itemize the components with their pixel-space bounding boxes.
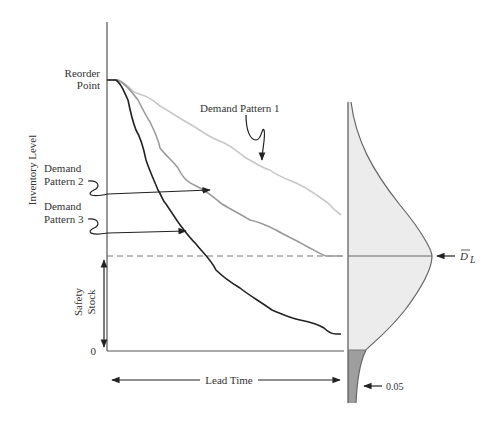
y-axis-label: Inventory Level bbox=[26, 135, 38, 206]
mean-demand-label: D bbox=[459, 250, 468, 262]
safety-stock-diagram: Reorder Point Inventory Level Demand Pat… bbox=[0, 0, 496, 424]
reorder-point-label-2: Point bbox=[77, 79, 100, 91]
demand-pattern-3-pointer bbox=[88, 219, 186, 234]
lead-time-label: Lead Time bbox=[205, 374, 252, 386]
reorder-point-label-1: Reorder bbox=[65, 67, 101, 79]
zero-label: 0 bbox=[91, 345, 97, 357]
demand-pattern-1-label: Demand Pattern 1 bbox=[200, 102, 279, 114]
safety-stock-label-2: Stock bbox=[85, 289, 97, 315]
stockout-probability-label: 0.05 bbox=[386, 381, 404, 392]
safety-stock-label-1: Safety bbox=[72, 287, 84, 316]
demand-pattern-3-label-1: Demand bbox=[44, 200, 82, 212]
demand-pattern-3-curve bbox=[107, 80, 341, 334]
mean-demand-subscript: L bbox=[469, 254, 476, 265]
demand-pattern-2-label-2: Pattern 2 bbox=[44, 175, 83, 187]
demand-pattern-1-curve bbox=[107, 80, 341, 215]
demand-pattern-1-pointer bbox=[246, 115, 265, 160]
demand-pattern-3-label-2: Pattern 3 bbox=[44, 213, 84, 225]
demand-pattern-2-label-1: Demand bbox=[44, 162, 82, 174]
